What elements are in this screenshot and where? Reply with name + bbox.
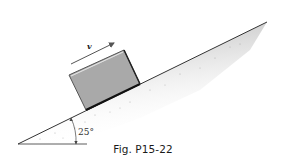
incline-diagram: 25° v	[0, 0, 286, 166]
incline-surface	[18, 22, 267, 144]
velocity-label: v	[87, 41, 92, 51]
figure-caption: Fig. P15-22	[0, 143, 286, 155]
angle-label: 25°	[78, 127, 94, 137]
